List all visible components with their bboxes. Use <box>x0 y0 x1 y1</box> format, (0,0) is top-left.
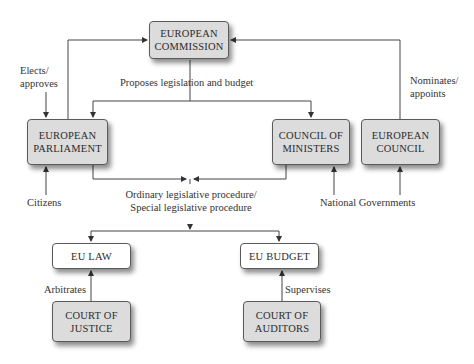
label-text: appoints <box>410 88 446 99</box>
label-elects-approves: Elects/ approves <box>20 64 58 90</box>
label-arbitrates: Arbitrates <box>44 283 86 296</box>
node-label: JUSTICE <box>70 323 112 334</box>
label-text: Special legislative procedure <box>130 202 251 213</box>
node-label: EUROPEAN <box>160 28 218 39</box>
node-label: COUNCIL <box>376 143 424 154</box>
node-label: EUROPEAN <box>372 130 430 141</box>
node-label: PARLIAMENT <box>33 143 102 154</box>
label-citizens: Citizens <box>27 196 61 209</box>
node-court-of-auditors: COURT OF AUDITORS <box>243 301 321 342</box>
label-text: Ordinary legislative procedure/ <box>125 189 256 200</box>
node-eu-law: EU LAW <box>52 243 131 269</box>
node-label: COUNCIL OF <box>279 130 343 141</box>
label-procedure: Ordinary legislative procedure/ Special … <box>120 188 262 214</box>
node-label: MINISTERS <box>282 143 339 154</box>
node-label: EU LAW <box>71 250 112 263</box>
node-label: EUROPEAN <box>39 130 97 141</box>
node-label: AUDITORS <box>255 323 310 334</box>
node-council-of-ministers: COUNCIL OF MINISTERS <box>272 119 350 165</box>
label-supervises: Supervises <box>285 283 331 296</box>
node-european-parliament: EUROPEAN PARLIAMENT <box>27 119 108 165</box>
label-proposes: Proposes legislation and budget <box>120 76 253 89</box>
node-court-of-justice: COURT OF JUSTICE <box>52 301 131 342</box>
node-european-council: EUROPEAN COUNCIL <box>361 119 440 165</box>
node-label: COURT OF <box>256 310 308 321</box>
node-label: EU BUDGET <box>249 250 310 263</box>
node-european-commission: EUROPEAN COMMISSION <box>149 21 229 59</box>
label-text: Elects/ <box>20 65 49 76</box>
label-nominates-appoints: Nominates/ appoints <box>410 74 458 100</box>
node-label: COMMISSION <box>154 41 223 52</box>
label-national-governments: National Governments <box>320 196 415 209</box>
label-text: approves <box>20 78 58 89</box>
node-label: COURT OF <box>65 310 117 321</box>
node-eu-budget: EU BUDGET <box>240 243 319 269</box>
label-text: Nominates/ <box>410 75 458 86</box>
